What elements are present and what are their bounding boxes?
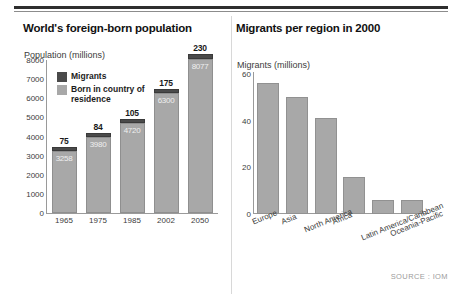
legend-label-residence: Born in country of residence xyxy=(71,84,161,104)
legend-label-migrants: Migrants xyxy=(71,71,106,81)
left-x-tick-label: 2050 xyxy=(183,216,217,225)
right-axis-caption: Migrants (millions) xyxy=(237,60,310,70)
left-y-tick-label: 3000 xyxy=(26,151,44,160)
legend-item-migrants: Migrants xyxy=(57,71,161,82)
left-bar-1985: 4720 xyxy=(120,119,145,213)
right-chart-title: Migrants per region in 2000 xyxy=(236,22,380,34)
bar-value-migrants: 230 xyxy=(183,43,217,53)
left-bar-2002: 6300 xyxy=(154,89,179,213)
bar-segment-migrants xyxy=(120,119,145,123)
bar-segment-residence: 3258 xyxy=(52,151,77,213)
infographic-page: World's foreign-born population Populati… xyxy=(0,0,462,307)
bar-value-residence: 3258 xyxy=(53,154,76,163)
left-bar-1965: 3258 xyxy=(52,147,77,213)
left-chart-legend: Migrants Born in country of residence xyxy=(57,71,161,106)
left-y-tick-label: 0 xyxy=(40,209,44,218)
right-plot-area: 0204060 xyxy=(254,74,426,214)
left-x-axis-line xyxy=(46,213,218,214)
bar-value-residence: 8077 xyxy=(189,62,212,71)
left-chart-panel: World's foreign-born population Populati… xyxy=(0,0,231,307)
bar-value-migrants: 75 xyxy=(47,136,81,146)
left-y-tick-label: 7000 xyxy=(26,75,44,84)
left-x-tick-label: 1975 xyxy=(81,216,115,225)
bar-segment-residence: 6300 xyxy=(154,93,179,213)
right-y-tick-label: 20 xyxy=(242,163,251,172)
left-bar-1975: 3980 xyxy=(86,133,111,213)
left-chart-title: World's foreign-born population xyxy=(23,22,192,34)
bar-segment-migrants xyxy=(188,54,213,58)
left-x-tick-label: 1985 xyxy=(115,216,149,225)
left-y-tick-label: 1000 xyxy=(26,189,44,198)
right-y-tick-label: 40 xyxy=(242,116,251,125)
bar-segment-migrants xyxy=(86,133,111,137)
left-x-tick-label: 1965 xyxy=(47,216,81,225)
left-y-tick-label: 5000 xyxy=(26,113,44,122)
bar-value-residence: 4720 xyxy=(121,126,144,135)
legend-swatch-migrants-icon xyxy=(57,72,67,82)
right-y-tick-label: 60 xyxy=(242,70,251,79)
left-x-tick-label: 2002 xyxy=(149,216,183,225)
source-note: SOURCE : IOM xyxy=(391,272,448,281)
left-y-tick-label: 2000 xyxy=(26,170,44,179)
bar-value-migrants: 105 xyxy=(115,108,149,118)
legend-item-residence: Born in country of residence xyxy=(57,84,161,104)
bar-value-residence: 3980 xyxy=(87,140,110,149)
left-y-tick-label: 4000 xyxy=(26,132,44,141)
bar-value-migrants: 84 xyxy=(81,122,115,132)
left-y-tick-label: 8000 xyxy=(26,56,44,65)
right-bar-latin-america-caribbean xyxy=(372,200,394,214)
right-bar-asia xyxy=(286,97,308,214)
left-y-tick-label: 6000 xyxy=(26,94,44,103)
right-bar-europe xyxy=(257,83,279,214)
bar-segment-migrants xyxy=(52,147,77,151)
left-bar-2050: 8077 xyxy=(188,54,213,213)
right-bar-north-america xyxy=(315,118,337,214)
bar-segment-residence: 3980 xyxy=(86,137,111,213)
bar-segment-residence: 8077 xyxy=(188,59,213,213)
bar-segment-residence: 4720 xyxy=(120,123,145,213)
legend-swatch-residence-icon xyxy=(57,85,67,95)
